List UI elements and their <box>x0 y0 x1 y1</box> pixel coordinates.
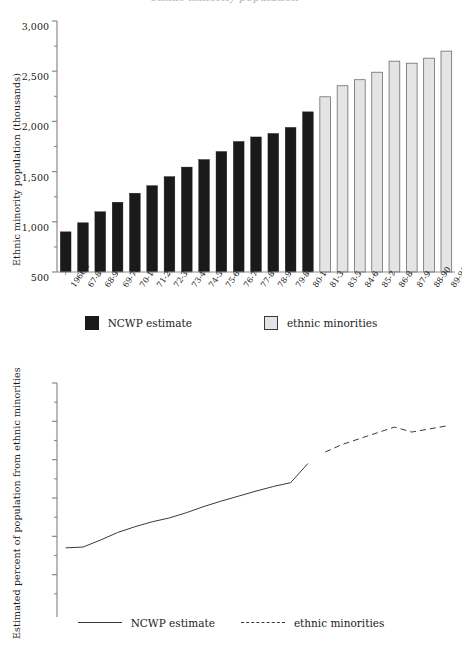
legend-label-ethnic-line: ethnic minorities <box>294 617 385 629</box>
clipped-header-text: ethnic minority population <box>150 0 298 4</box>
bar <box>337 86 348 272</box>
line-chart-figure: Estimated percent of population from eth… <box>0 355 462 652</box>
bar-chart-figure: Ethnic minority population (thousands) 5… <box>0 6 462 351</box>
legend-swatch-light-icon <box>264 316 278 330</box>
bar-y-tick-label: 3,000 <box>0 21 49 32</box>
bar <box>372 72 383 272</box>
legend-label-ethnic-bar: ethnic minorities <box>287 317 378 329</box>
bar <box>389 61 400 272</box>
bar-y-tick-label: 1,000 <box>0 222 49 233</box>
bar <box>112 202 123 272</box>
bar <box>199 160 210 272</box>
series-line <box>325 426 446 452</box>
bar <box>130 193 141 272</box>
bar-y-tick-label: 2,000 <box>0 121 49 132</box>
legend-entry-ethnic-line: ethnic minorities <box>241 617 385 629</box>
bar <box>233 141 244 272</box>
legend-entry-ncwp-line: NCWP estimate <box>78 617 215 629</box>
bar <box>424 58 435 272</box>
bar <box>320 97 331 272</box>
bar-chart-legend: NCWP estimate ethnic minorities <box>0 316 462 330</box>
legend-dashed-line-icon <box>241 619 285 627</box>
bar <box>303 112 314 272</box>
bar-y-tick-label: 1,500 <box>0 172 49 183</box>
bar <box>164 177 175 272</box>
bar <box>95 212 106 272</box>
bar-chart-plot <box>0 6 462 316</box>
series-line <box>66 464 308 548</box>
bar <box>441 51 452 272</box>
bar <box>268 133 279 272</box>
legend-label-ncwp-bar: NCWP estimate <box>108 317 192 329</box>
legend-solid-line-icon <box>78 619 122 627</box>
bar <box>285 127 296 272</box>
bar <box>354 80 365 272</box>
bar <box>251 137 262 272</box>
bar <box>181 167 192 272</box>
bar-chart-y-axis-title: Ethnic minority population (thousands) <box>11 73 22 266</box>
bar-y-tick-label: 2,500 <box>0 71 49 82</box>
line-chart-legend: NCWP estimate ethnic minorities <box>0 617 462 629</box>
line-chart-plot <box>0 355 462 617</box>
bar <box>406 63 417 272</box>
bar-y-tick-label: 500 <box>0 272 49 283</box>
bar <box>216 152 227 272</box>
bar <box>60 232 71 272</box>
legend-entry-ethnic-bar: ethnic minorities <box>264 316 378 330</box>
legend-swatch-dark-icon <box>85 316 99 330</box>
bar <box>147 186 158 272</box>
legend-entry-ncwp-bar: NCWP estimate <box>85 316 192 330</box>
line-chart-y-axis-title: Estimated percent of population from eth… <box>11 367 22 639</box>
legend-label-ncwp-line: NCWP estimate <box>131 617 215 629</box>
